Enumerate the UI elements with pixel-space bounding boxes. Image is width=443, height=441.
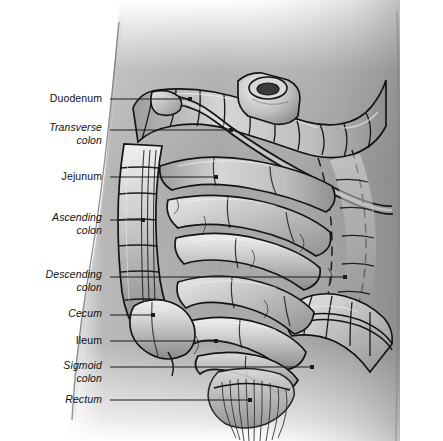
leader-endpoint-transverse-colon xyxy=(229,128,233,132)
leader-endpoint-descending-colon xyxy=(343,275,347,279)
label-cecum-line1: Cecum xyxy=(68,307,102,320)
label-duodenum: Duodenum xyxy=(50,92,102,105)
label-descending-colon-line1: Descending xyxy=(46,268,102,281)
label-ascending-colon-line1: Ascending xyxy=(52,211,102,224)
label-descending-colon-line2: colon xyxy=(46,281,102,294)
label-ascending-colon-line2: colon xyxy=(52,224,102,237)
label-sigmoid-colon-line2: colon xyxy=(63,372,102,385)
label-duodenum-line1: Duodenum xyxy=(50,92,102,105)
label-transverse-colon: Transversecolon xyxy=(49,121,102,147)
label-ileum-line1: Ileum xyxy=(76,334,102,347)
label-sigmoid-colon: Sigmoidcolon xyxy=(63,359,102,385)
label-transverse-colon-line1: Transverse xyxy=(49,121,102,134)
leader-endpoint-ascending-colon xyxy=(141,218,145,222)
label-transverse-colon-line2: colon xyxy=(49,134,102,147)
label-jejunum-line1: Jejunum xyxy=(62,170,102,183)
label-rectum: Rectum xyxy=(65,393,102,406)
label-ileum: Ileum xyxy=(76,334,102,347)
label-descending-colon: Descendingcolon xyxy=(46,268,102,294)
leader-endpoint-ileum xyxy=(214,339,218,343)
leader-endpoint-cecum xyxy=(151,313,155,317)
leader-endpoint-sigmoid-colon xyxy=(310,365,314,369)
label-cecum: Cecum xyxy=(68,307,102,320)
label-ascending-colon: Ascendingcolon xyxy=(52,211,102,237)
leader-endpoint-duodenum xyxy=(188,97,192,101)
leader-endpoint-jejunum xyxy=(214,175,218,179)
label-rectum-line1: Rectum xyxy=(65,393,102,406)
label-jejunum: Jejunum xyxy=(62,170,102,183)
label-sigmoid-colon-line1: Sigmoid xyxy=(63,359,102,372)
leader-endpoint-rectum xyxy=(248,398,252,402)
